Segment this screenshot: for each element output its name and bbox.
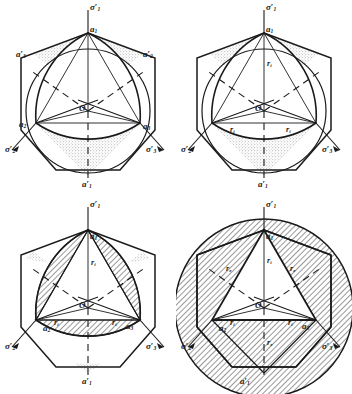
panel-bottom-right: σ′1 a1 ri re re O ri ri re a2 a3 <box>176 197 352 394</box>
panel-bottom-left-drawing <box>0 197 176 394</box>
panel-top-left: σ′1 a1 a′3 a′2 O a2 a3 σ′2 σ′3 a′1 <box>0 0 176 197</box>
figure-sheet: σ′1 a1 a′3 a′2 O a2 a3 σ′2 σ′3 a′1 <box>0 0 352 394</box>
axis-sigma2-line <box>12 123 36 150</box>
panel-top-right-drawing <box>176 0 352 197</box>
panel-bottom-right-drawing <box>176 197 352 394</box>
axis-sigma3-line <box>140 123 164 150</box>
panel-top-left-drawing <box>0 0 176 197</box>
panel-bottom-left: σ′1 a1 ri O ri ri a2 a3 σ′2 σ′3 a′1 <box>0 197 176 394</box>
panel-top-right: σ′1 a1 ri O ri ri σ′2 σ′3 a′1 <box>176 0 352 197</box>
